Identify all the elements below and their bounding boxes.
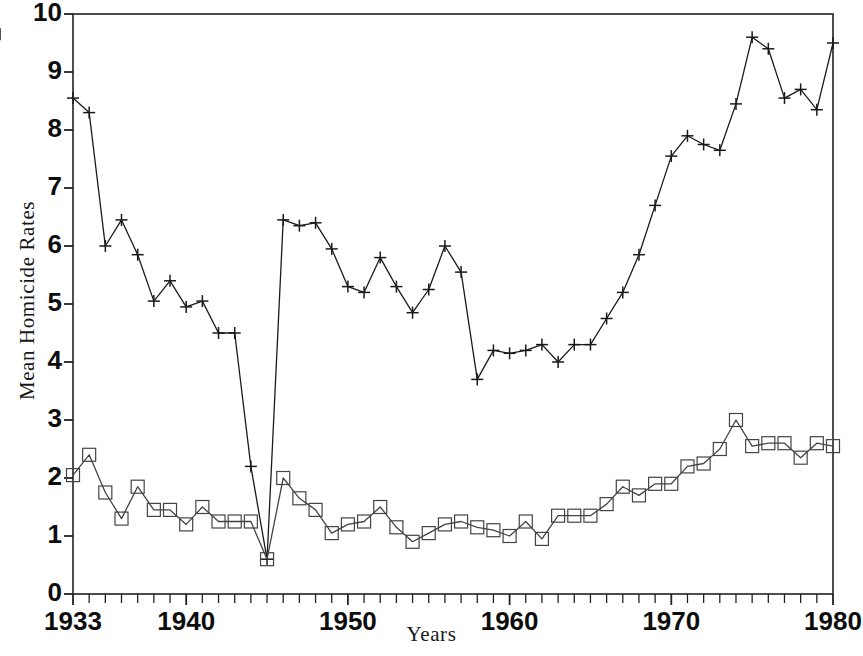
y-axis-tick-label: 6 bbox=[22, 229, 62, 260]
chart-plot-area bbox=[0, 0, 863, 656]
data-point-marker bbox=[827, 37, 839, 49]
data-point-marker bbox=[487, 344, 499, 356]
data-point-marker bbox=[132, 249, 144, 261]
data-point-marker bbox=[326, 243, 338, 255]
y-axis-tick-label: 9 bbox=[22, 55, 62, 86]
series-line bbox=[73, 37, 833, 559]
y-axis-tick-label: 1 bbox=[22, 519, 62, 550]
data-point-marker bbox=[633, 249, 645, 261]
x-axis-tick-label: 1933 bbox=[23, 606, 123, 637]
data-point-marker bbox=[213, 327, 225, 339]
data-point-marker bbox=[714, 144, 726, 156]
y-axis-tick-label: 2 bbox=[22, 461, 62, 492]
data-point-marker bbox=[423, 284, 435, 296]
x-axis-tick-label: 1950 bbox=[298, 606, 398, 637]
data-point-marker bbox=[277, 214, 289, 226]
data-point-marker bbox=[778, 92, 790, 104]
data-point-marker bbox=[116, 214, 128, 226]
data-point-marker bbox=[504, 347, 516, 359]
y-axis-tick-label: 0 bbox=[22, 577, 62, 608]
data-point-marker bbox=[762, 43, 774, 55]
data-point-marker bbox=[390, 281, 402, 293]
data-point-marker bbox=[698, 139, 710, 151]
y-axis-tick-label: 5 bbox=[22, 287, 62, 318]
data-point-marker bbox=[245, 460, 257, 472]
x-axis-tick-label: 1980 bbox=[783, 606, 863, 637]
data-point-marker bbox=[164, 275, 176, 287]
data-point-marker bbox=[342, 281, 354, 293]
series-line bbox=[73, 420, 833, 559]
data-point-marker bbox=[358, 286, 370, 298]
data-point-marker bbox=[746, 31, 758, 43]
data-point-marker bbox=[455, 266, 467, 278]
y-axis-tick-label: 4 bbox=[22, 345, 62, 376]
data-point-marker bbox=[374, 252, 386, 264]
data-point-marker bbox=[196, 295, 208, 307]
data-point-marker bbox=[99, 240, 111, 252]
data-point-marker bbox=[310, 217, 322, 229]
y-axis-tick-label: 3 bbox=[22, 403, 62, 434]
data-point-marker bbox=[681, 130, 693, 142]
x-axis-title: Years bbox=[0, 622, 863, 647]
data-point-marker bbox=[439, 240, 451, 252]
data-point-marker bbox=[180, 301, 192, 313]
data-point-marker bbox=[229, 327, 241, 339]
chart-series-lower-series bbox=[67, 414, 840, 566]
data-point-marker bbox=[649, 199, 661, 211]
data-point-marker bbox=[665, 150, 677, 162]
homicide-rates-chart: Mean Homicide Rates Years 01234567891019… bbox=[0, 0, 863, 656]
data-point-marker bbox=[617, 286, 629, 298]
y-axis-tick-label: 8 bbox=[22, 113, 62, 144]
data-point-marker bbox=[407, 307, 419, 319]
data-point-marker bbox=[520, 344, 532, 356]
x-axis-tick-label: 1960 bbox=[460, 606, 560, 637]
data-point-marker bbox=[584, 339, 596, 351]
data-point-marker bbox=[811, 104, 823, 116]
chart-series-upper-series bbox=[0, 28, 839, 565]
data-point-marker bbox=[795, 83, 807, 95]
plot-frame bbox=[73, 14, 833, 594]
x-axis-tick-label: 1970 bbox=[621, 606, 721, 637]
x-axis-tick-label: 1940 bbox=[136, 606, 236, 637]
data-point-marker bbox=[601, 313, 613, 325]
y-axis-tick-label: 10 bbox=[22, 0, 62, 28]
data-point-marker bbox=[471, 373, 483, 385]
data-point-marker bbox=[148, 295, 160, 307]
y-axis-tick-label: 7 bbox=[22, 171, 62, 202]
data-point-marker bbox=[293, 220, 305, 232]
data-point-marker bbox=[730, 98, 742, 110]
